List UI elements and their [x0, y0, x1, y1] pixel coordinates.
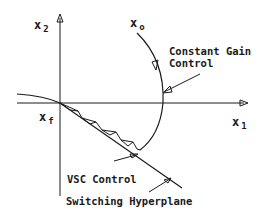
- phase-plane-diagram: x2 x1 xo xf Constant Gain Control VSC Co…: [0, 0, 267, 217]
- x1-axis: [17, 100, 248, 106]
- pointer-arrow-icon: [163, 86, 172, 93]
- hyperplane-pointer: [149, 178, 171, 192]
- constant-gain-trajectory: [137, 33, 163, 150]
- constant-gain-label: Constant Gain: [169, 45, 251, 57]
- x0-label: xo: [130, 16, 145, 32]
- x1-axis-label: x1: [232, 115, 247, 131]
- vsc-control-label: VSC Control: [67, 173, 137, 185]
- xf-label: xf: [39, 110, 54, 126]
- x2-axis-label: x2: [34, 18, 49, 34]
- vsc-control-pointer: [114, 154, 138, 161]
- constant-gain-label-line2: Control: [169, 57, 213, 69]
- switching-hyperplane-label: Switching Hyperplane: [66, 195, 192, 207]
- constant-gain-pointer: [163, 74, 200, 93]
